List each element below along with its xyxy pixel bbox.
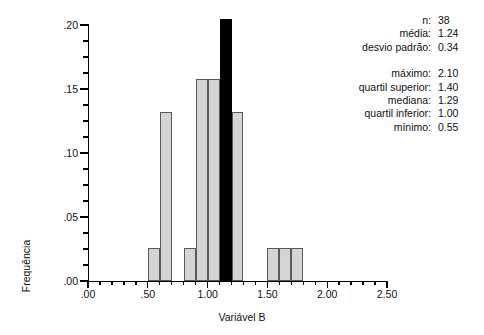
- y-axis-minor-tick: [83, 40, 88, 41]
- statistic-label-2: desvio padrão:: [362, 41, 431, 54]
- x-axis-minor-tick: [219, 281, 220, 285]
- x-axis-tick: [207, 281, 208, 288]
- x-axis-minor-tick: [171, 281, 172, 285]
- x-axis-tick-label: 1.50: [242, 288, 292, 300]
- statistic-label-2: mediana:: [388, 94, 431, 107]
- statistic-value-2: 0.34: [431, 41, 472, 54]
- y-axis-tick-label-wrap: .20: [12, 20, 78, 30]
- y-axis-minor-tick: [83, 136, 88, 137]
- statistic-label-4: mínimo:: [394, 121, 431, 134]
- x-axis-minor-tick: [350, 281, 351, 285]
- histogram-bar: [184, 248, 196, 281]
- statistic-value-3: 1.00: [431, 107, 472, 120]
- x-axis-minor-tick: [291, 281, 292, 285]
- statistics-group-summary: n:38média:1.24desvio padrão:0.34: [262, 14, 472, 54]
- x-axis-minor-tick: [135, 281, 136, 285]
- y-axis-minor-tick: [83, 120, 88, 121]
- x-axis-minor-tick: [315, 281, 316, 285]
- statistic-row: n:38: [262, 14, 472, 27]
- x-axis-minor-tick: [111, 281, 112, 285]
- x-axis-minor-tick: [195, 281, 196, 285]
- statistic-value-1: 1.24: [431, 27, 472, 40]
- x-axis-tick-label: 2.00: [302, 288, 352, 300]
- y-axis-tick-label: .15: [18, 84, 78, 94]
- histogram-bar: [196, 79, 208, 281]
- x-axis-minor-tick: [338, 281, 339, 285]
- histogram-bar-highlighted: [220, 19, 232, 281]
- histogram-bar: [279, 248, 291, 281]
- x-axis-tick-label: .00: [63, 288, 113, 300]
- histogram-bar: [160, 112, 172, 281]
- statistic-label-3: quartil inferior:: [364, 107, 431, 120]
- y-axis-tick: [80, 216, 88, 217]
- histogram-bar: [208, 79, 220, 281]
- y-axis-title: Frequência: [20, 216, 32, 316]
- x-axis-tick: [87, 281, 88, 288]
- y-axis-minor-tick: [83, 200, 88, 201]
- x-axis-tick-label: .50: [123, 288, 173, 300]
- histogram-figure: .00.05.10.15.20.00.501.001.502.002.50 Fr…: [0, 0, 484, 335]
- y-axis-tick-label-wrap: .15: [12, 84, 78, 94]
- y-axis-line: [88, 24, 89, 282]
- y-axis-title-holder: Frequência: [10, 110, 30, 210]
- statistic-value-2: 1.29: [431, 94, 472, 107]
- x-axis-tick: [267, 281, 268, 288]
- x-axis-tick-label: 1.00: [183, 288, 233, 300]
- statistic-row: desvio padrão:0.34: [262, 41, 472, 54]
- statistics-panel: n:38média:1.24desvio padrão:0.34 máximo:…: [262, 14, 472, 147]
- x-axis-minor-tick: [362, 281, 363, 285]
- x-axis-minor-tick: [303, 281, 304, 285]
- y-axis-tick: [80, 88, 88, 89]
- statistic-row: quartil inferior:1.00: [262, 107, 472, 120]
- statistic-label-0: máximo:: [391, 67, 431, 80]
- statistic-value-4: 0.55: [431, 121, 472, 134]
- y-axis-minor-tick: [83, 264, 88, 265]
- statistics-group-quantiles: máximo:2.10quartil superior:1.40mediana:…: [262, 67, 472, 134]
- statistic-row: mínimo:0.55: [262, 121, 472, 134]
- histogram-bar: [232, 112, 244, 281]
- x-axis-tick-label: 2.50: [362, 288, 412, 300]
- x-axis-minor-tick: [159, 281, 160, 285]
- y-axis-tick: [80, 152, 88, 153]
- y-axis-minor-tick: [83, 72, 88, 73]
- statistic-row: máximo:2.10: [262, 67, 472, 80]
- statistic-row: mediana:1.29: [262, 94, 472, 107]
- x-axis-minor-tick: [231, 281, 232, 285]
- x-axis-minor-tick: [123, 281, 124, 285]
- x-axis-line: [88, 281, 387, 282]
- y-axis-minor-tick: [83, 184, 88, 185]
- x-axis-tick: [386, 281, 387, 288]
- y-axis-minor-tick: [83, 104, 88, 105]
- statistic-value-1: 1.40: [431, 81, 472, 94]
- statistic-label-1: média:: [399, 27, 431, 40]
- x-axis-tick: [147, 281, 148, 288]
- histogram-bar: [148, 248, 160, 281]
- statistic-value-0: 38: [431, 14, 472, 27]
- x-axis-minor-tick: [255, 281, 256, 285]
- y-axis-minor-tick: [83, 56, 88, 57]
- y-axis-minor-tick: [83, 168, 88, 169]
- x-axis-title: Variável B: [0, 311, 484, 323]
- histogram-bar: [267, 248, 279, 281]
- y-axis-minor-tick: [83, 232, 88, 233]
- x-axis-minor-tick: [374, 281, 375, 285]
- statistic-label-1: quartil superior:: [359, 81, 431, 94]
- y-axis-minor-tick: [83, 248, 88, 249]
- statistic-row: média:1.24: [262, 27, 472, 40]
- x-axis-minor-tick: [279, 281, 280, 285]
- statistic-row: quartil superior:1.40: [262, 81, 472, 94]
- x-axis-minor-tick: [99, 281, 100, 285]
- y-axis-tick-label: .20: [18, 20, 78, 30]
- y-axis-tick: [80, 24, 88, 25]
- x-axis-minor-tick: [243, 281, 244, 285]
- x-axis-tick: [327, 281, 328, 288]
- histogram-bar: [291, 248, 303, 281]
- statistic-value-0: 2.10: [431, 67, 472, 80]
- x-axis-minor-tick: [183, 281, 184, 285]
- statistic-label-0: n:: [422, 14, 431, 27]
